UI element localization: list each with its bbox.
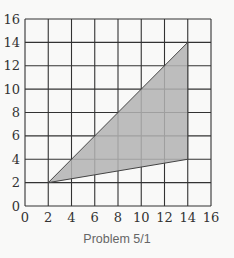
- y-tick-label: 8: [12, 105, 20, 120]
- x-tick-label: 2: [44, 210, 52, 225]
- x-tick-label: 16: [203, 210, 220, 225]
- y-axis-ticks: 0246810121416: [3, 12, 20, 214]
- y-tick-label: 10: [3, 82, 20, 97]
- y-tick-label: 14: [3, 35, 20, 50]
- x-tick-label: 4: [67, 210, 75, 225]
- x-tick-label: 0: [21, 210, 29, 225]
- x-axis-ticks: 0246810121416: [21, 210, 219, 225]
- y-tick-label: 16: [3, 12, 20, 27]
- y-tick-label: 2: [12, 175, 20, 190]
- y-tick-label: 12: [3, 58, 20, 73]
- x-tick-label: 8: [114, 210, 122, 225]
- figure-caption: Problem 5/1: [83, 232, 150, 246]
- y-tick-label: 4: [12, 152, 20, 167]
- x-tick-label: 6: [91, 210, 99, 225]
- x-tick-label: 10: [133, 210, 150, 225]
- y-tick-label: 6: [12, 128, 20, 143]
- problem-figure: 0246810121416 0246810121416 Problem 5/1: [0, 0, 234, 258]
- x-tick-label: 12: [156, 210, 173, 225]
- y-tick-label: 0: [12, 199, 20, 214]
- x-tick-label: 14: [179, 210, 196, 225]
